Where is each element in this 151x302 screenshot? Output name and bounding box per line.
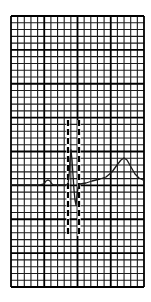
ecg-strip — [0, 0, 151, 302]
